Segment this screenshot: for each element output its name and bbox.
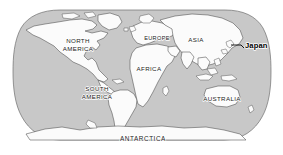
- label-south-america-line2: AMERICA: [82, 93, 113, 100]
- label-north-america-line1: NORTH: [66, 37, 90, 44]
- label-africa: AFRICA: [137, 65, 162, 72]
- world-map-svg: NORTH AMERICA SOUTH AMERICA EUROPE AFRIC…: [0, 0, 283, 155]
- label-australia: AUSTRALIA: [203, 95, 241, 102]
- label-antarctica: ANTARCTICA: [120, 135, 166, 142]
- label-asia: ASIA: [188, 36, 204, 43]
- ireland-island: [124, 28, 128, 31]
- label-north-america-line2: AMERICA: [63, 45, 94, 52]
- label-europe: EUROPE: [144, 35, 170, 41]
- world-map-figure: NORTH AMERICA SOUTH AMERICA EUROPE AFRIC…: [0, 0, 283, 155]
- label-japan-callout: Japan: [245, 41, 268, 50]
- label-south-america-line1: SOUTH: [85, 85, 108, 92]
